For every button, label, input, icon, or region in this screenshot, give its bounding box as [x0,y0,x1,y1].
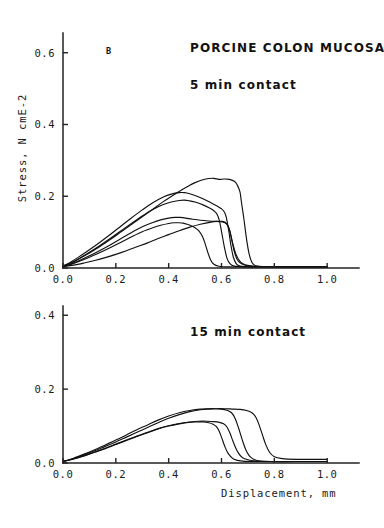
top-panel-axes [63,33,359,268]
bottom-panel: 0.00.20.40.60.81.0 0.00.20.4 15 min cont… [35,306,359,499]
bottom-panel-y-tick-labels: 0.00.20.4 [35,309,55,469]
figure-container: 0.00.20.40.60.81.0 0.00.20.40.6 B PORCIN… [0,0,384,528]
panel-letter-label: B [106,46,112,56]
y-tick-label: 0.2 [35,190,55,202]
top-panel-x-tick-labels: 0.00.20.40.60.81.0 [53,273,338,285]
bottom-panel-annotation: 15 min contact [190,325,306,339]
x-tick-label: 1.0 [317,273,337,285]
top-panel-annotation: 5 min contact [190,78,297,92]
x-tick-label: 0.4 [158,273,178,285]
y-axis-title: Stress, N cmE-2 [16,94,28,202]
x-tick-label: 0.8 [264,273,284,285]
data-curve [63,409,327,462]
y-tick-label: 0.0 [35,262,55,274]
figure-title: PORCINE COLON MUCOSA [190,41,384,55]
bottom-panel-curves [63,409,327,462]
x-tick-label: 0.6 [211,468,231,480]
y-tick-label: 0.2 [35,383,55,395]
x-tick-label: 0.6 [211,273,231,285]
data-curve [63,193,327,267]
data-curve [63,178,327,266]
x-tick-label: 0.2 [106,468,126,480]
x-axis-title: Displacement, mm [221,487,337,499]
bottom-panel-x-tick-labels: 0.00.20.40.60.81.0 [53,468,338,480]
top-panel: 0.00.20.40.60.81.0 0.00.20.40.6 B PORCIN… [16,33,384,285]
x-tick-label: 0.2 [106,273,126,285]
y-tick-label: 0.4 [35,118,55,130]
top-panel-curves [63,178,327,267]
data-curve [63,200,327,267]
x-tick-label: 0.4 [158,468,178,480]
y-tick-label: 0.6 [35,47,55,59]
data-curve [63,422,327,462]
x-tick-label: 0.8 [264,468,284,480]
y-tick-label: 0.4 [35,309,55,321]
x-tick-label: 1.0 [317,468,337,480]
x-tick-label: 0.0 [53,273,73,285]
data-curve [63,217,327,267]
data-curve [63,421,327,461]
data-curve [63,409,327,462]
stress-displacement-figure: 0.00.20.40.60.81.0 0.00.20.40.6 B PORCIN… [0,0,384,528]
top-panel-y-tick-labels: 0.00.20.40.6 [35,47,55,274]
x-tick-label: 0.0 [53,468,73,480]
y-tick-label: 0.0 [35,457,55,469]
